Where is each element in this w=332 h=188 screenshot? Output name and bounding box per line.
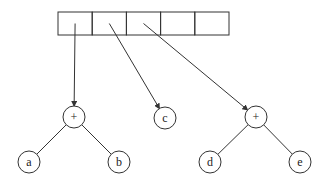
node-label: c: [162, 111, 167, 125]
node-label: b: [116, 155, 122, 169]
node-label: +: [253, 110, 260, 124]
node-e: e: [289, 151, 311, 173]
pointer-arrow: [74, 24, 75, 107]
tree-edge: [82, 125, 111, 154]
tree-edge: [37, 125, 66, 154]
tree-edge: [264, 125, 293, 154]
pointer-arrow: [144, 24, 248, 110]
array-cell-1: [92, 12, 126, 35]
node-label: e: [297, 155, 302, 169]
expression-dag-diagram: +abc+de: [0, 0, 332, 188]
node-d: d: [199, 151, 221, 173]
pointer-arrow: [109, 24, 159, 109]
connectors: [37, 24, 293, 155]
node-c: c: [154, 107, 176, 129]
node-b: b: [108, 151, 130, 173]
node-plus1: +: [63, 106, 85, 128]
tree-nodes: +abc+de: [18, 106, 311, 173]
array-cell-4: [195, 12, 229, 35]
node-label: a: [26, 155, 32, 169]
tree-edge: [218, 125, 248, 155]
node-label: +: [71, 110, 78, 124]
node-label: d: [207, 155, 213, 169]
array-cell-3: [161, 12, 195, 35]
node-plus2: +: [245, 106, 267, 128]
node-a: a: [18, 151, 40, 173]
